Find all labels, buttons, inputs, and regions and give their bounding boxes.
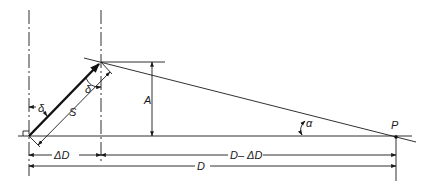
- sight-line: [84, 58, 416, 142]
- label-d: D: [197, 160, 205, 172]
- label-s: S: [69, 106, 77, 118]
- alpha-arc: [301, 121, 305, 135]
- label-a: A: [143, 94, 151, 106]
- s-extension-bottom: [29, 136, 40, 147]
- sightline-diagram: δ δ S A α P ΔD D– ΔD D: [0, 0, 438, 187]
- label-alpha: α: [306, 117, 313, 129]
- label-delta-left: δ: [38, 102, 45, 114]
- slope-vector-s: [29, 64, 99, 136]
- label-d-minus-delta-d: D– ΔD: [230, 149, 262, 161]
- label-delta-d: ΔD: [53, 149, 69, 161]
- right-angle-marker: [23, 131, 29, 136]
- label-delta-top: δ: [85, 83, 92, 95]
- label-p: P: [391, 119, 399, 131]
